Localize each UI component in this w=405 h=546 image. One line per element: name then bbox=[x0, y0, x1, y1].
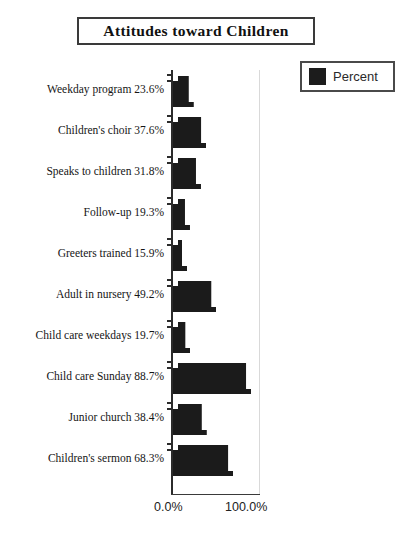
bar-row: Children's sermon 68.3% bbox=[0, 442, 405, 483]
x-tick-label-100: 100.0% bbox=[225, 500, 267, 514]
bar bbox=[173, 322, 190, 353]
bar-row-label: Junior church 38.4% bbox=[0, 411, 164, 423]
bar bbox=[173, 199, 190, 230]
bar-row-label: Child care weekdays 19.7% bbox=[0, 329, 164, 341]
bar bbox=[173, 445, 233, 476]
bar-row-label: Child care Sunday 88.7% bbox=[0, 370, 164, 382]
bar-row: Junior church 38.4% bbox=[0, 401, 405, 442]
bar-row: Child care weekdays 19.7% bbox=[0, 319, 405, 360]
bar-wrapper bbox=[173, 76, 194, 107]
bar bbox=[173, 76, 194, 107]
bar-row: Speaks to children 31.8% bbox=[0, 155, 405, 196]
bar-wrapper bbox=[173, 199, 190, 230]
bar-wrapper bbox=[173, 404, 207, 435]
bar-row-label: Speaks to children 31.8% bbox=[0, 165, 164, 177]
bar-row: Children's choir 37.6% bbox=[0, 114, 405, 155]
bar-row-label: Adult in nursery 49.2% bbox=[0, 288, 164, 300]
bar-row-label: Greeters trained 15.9% bbox=[0, 247, 164, 259]
x-tick-label-0: 0.0% bbox=[154, 500, 183, 514]
value-axis-line bbox=[171, 494, 260, 495]
bar-row: Weekday program 23.6% bbox=[0, 73, 405, 114]
bar-wrapper bbox=[173, 445, 233, 476]
bar-wrapper bbox=[173, 240, 187, 271]
bar-row-label: Follow-up 19.3% bbox=[0, 206, 164, 218]
bar-wrapper bbox=[173, 281, 216, 312]
bar-row: Adult in nursery 49.2% bbox=[0, 278, 405, 319]
bar-row: Follow-up 19.3% bbox=[0, 196, 405, 237]
chart-title-box: Attitudes toward Children bbox=[77, 17, 315, 45]
bar-wrapper bbox=[173, 158, 201, 189]
bar bbox=[173, 363, 251, 394]
bar-row-label: Children's choir 37.6% bbox=[0, 124, 164, 136]
bar bbox=[173, 240, 187, 271]
bar-row-label: Weekday program 23.6% bbox=[0, 83, 164, 95]
bar-wrapper bbox=[173, 322, 190, 353]
page-title: Attitudes toward Children bbox=[103, 22, 288, 40]
bar bbox=[173, 158, 201, 189]
bar-wrapper bbox=[173, 363, 251, 394]
chart-plot-area: Weekday program 23.6%Children's choir 37… bbox=[0, 70, 405, 510]
bar bbox=[173, 404, 207, 435]
bar-row: Greeters trained 15.9% bbox=[0, 237, 405, 278]
bar-wrapper bbox=[173, 117, 206, 148]
bar bbox=[173, 117, 206, 148]
bar-row-label: Children's sermon 68.3% bbox=[0, 452, 164, 464]
bar bbox=[173, 281, 216, 312]
bar-row: Child care Sunday 88.7% bbox=[0, 360, 405, 401]
